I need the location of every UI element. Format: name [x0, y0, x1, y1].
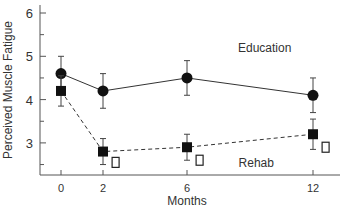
x-tick-label: 0	[58, 182, 64, 194]
open-square-marker	[112, 157, 119, 167]
circle-marker	[182, 72, 193, 83]
square-marker	[182, 142, 192, 152]
square-marker	[98, 147, 108, 157]
open-square-marker	[196, 155, 203, 165]
y-tick-label: 6	[26, 6, 33, 21]
square-marker	[308, 129, 318, 139]
x-tick-label: 6	[184, 182, 190, 194]
circle-marker	[98, 85, 109, 96]
x-tick-label: 12	[307, 182, 319, 194]
y-tick-label: 5	[26, 49, 33, 64]
circle-marker	[308, 90, 319, 101]
y-tick-label: 3	[26, 136, 33, 151]
annotation-label: Education	[238, 41, 291, 55]
chart: 345602612MonthsPerceived Muscle FatigueE…	[0, 0, 344, 206]
y-tick-label: 4	[26, 93, 33, 108]
open-square-marker	[322, 142, 329, 152]
x-tick-label: 2	[100, 182, 106, 194]
square-marker	[56, 86, 66, 96]
x-axis-label: Months	[167, 194, 206, 206]
annotation-label: Rehab	[239, 156, 275, 170]
y-axis-label: Perceived Muscle Fatigue	[1, 21, 15, 159]
